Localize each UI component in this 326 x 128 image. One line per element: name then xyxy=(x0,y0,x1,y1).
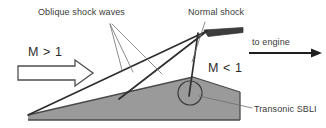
diagram-canvas: Oblique shock waves Normal shock M > 1 M… xyxy=(0,0,326,128)
label-normal-shock: Normal shock xyxy=(188,7,245,17)
label-mach-downstream: M < 1 xyxy=(208,61,243,75)
compression-ramp-body xyxy=(28,77,240,120)
freestream-arrow-icon xyxy=(18,60,93,86)
to-engine-arrow-icon xyxy=(249,49,322,58)
oblique-shock-leader-3 xyxy=(110,24,122,70)
label-oblique-shock-waves: Oblique shock waves xyxy=(38,7,125,17)
label-transonic-sbli: Transonic SBLI xyxy=(254,104,317,114)
label-to-engine: to engine xyxy=(252,37,290,47)
shock-diagram-figure: Oblique shock waves Normal shock M > 1 M… xyxy=(0,0,326,128)
oblique-shock-leader-2 xyxy=(112,24,162,74)
cowl-lip xyxy=(204,28,243,37)
label-mach-upstream: M > 1 xyxy=(28,45,63,59)
oblique-shock-leader-1 xyxy=(110,24,133,72)
